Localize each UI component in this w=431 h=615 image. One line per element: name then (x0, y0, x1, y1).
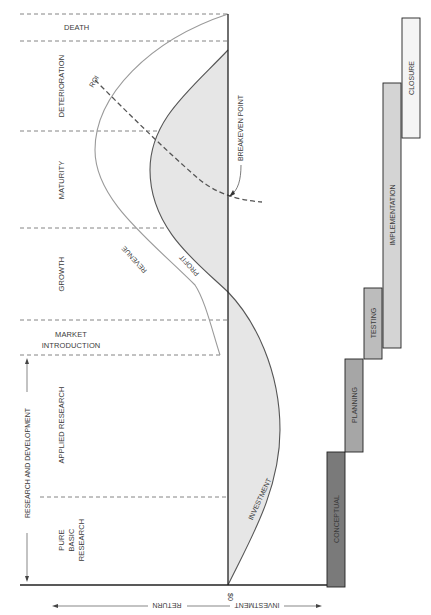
investment-shaded-area (228, 292, 280, 585)
phase-label-growth: GROWTH (57, 257, 66, 292)
breakeven-arrow-icon (229, 190, 235, 197)
phase-label-death: DEATH (64, 23, 89, 32)
phase-label-deterioration: DETERIORATION (57, 55, 66, 117)
investment-arrow-icon (316, 604, 322, 608)
revenue-label: REVENUE (120, 245, 148, 275)
breakeven-label: BREAKEVEN POINT (237, 94, 244, 161)
zero-label: $0 (227, 593, 234, 601)
phase-label-pure-1: PURE (57, 529, 66, 550)
roi-label: ROI (88, 74, 100, 88)
bar-label-testing: TESTING (370, 308, 377, 338)
rnd-arrow-down-icon (25, 576, 29, 582)
life-cycle-diagram: DEATH DETERIORATION MATURITY GROWTH MARK… (0, 0, 431, 615)
phase-label-applied-research: APPLIED RESEARCH (57, 386, 66, 463)
rnd-bracket-label: RESEARCH AND DEVELOPMENT (24, 407, 31, 518)
bar-label-planning: PLANNING (351, 387, 358, 423)
investment-axis-label: INVESTMENT (234, 602, 280, 609)
phase-label-market-1: MARKET (55, 330, 87, 339)
bar-label-implementation: IMPLEMENTATION (389, 184, 396, 245)
phase-label-pure-2: BASIC (67, 528, 76, 551)
bar-label-conceptual: CONCEPTUAL (333, 495, 340, 543)
return-arrow-icon (52, 604, 58, 608)
breakeven-leader (231, 165, 241, 195)
phase-label-market-2: INTRODUCTION (42, 341, 101, 350)
return-label: RETURN (152, 602, 181, 609)
project-phase-bars: CONCEPTUAL PLANNING TESTING IMPLEMENTATI… (327, 18, 420, 587)
rnd-arrow-up-icon (25, 358, 29, 364)
phase-label-pure-3: RESEARCH (77, 519, 86, 561)
bar-label-closure: CLOSURE (408, 61, 415, 95)
phase-label-maturity: MATURITY (57, 161, 66, 200)
